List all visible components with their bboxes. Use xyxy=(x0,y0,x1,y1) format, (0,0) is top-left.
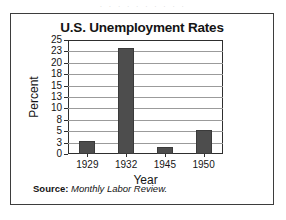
bar-1929 xyxy=(79,141,95,154)
x-axis-tick-mark xyxy=(87,154,88,157)
gridline xyxy=(68,97,223,98)
bar-1945 xyxy=(157,147,173,154)
x-axis-tick-label: 1945 xyxy=(154,160,176,170)
x-axis-tick-label: 1929 xyxy=(76,160,98,170)
y-axis-tick-mark xyxy=(64,63,68,64)
y-axis-tick-label: 10 xyxy=(51,103,62,113)
gridline xyxy=(68,74,223,75)
y-axis-tick-label: 23 xyxy=(51,46,62,56)
y-axis-tick-label: 3 xyxy=(56,138,62,148)
x-axis-tick-mark xyxy=(126,154,127,157)
chart-figure-frame: U.S. Unemployment Rates Percent 03581013… xyxy=(10,13,274,205)
x-axis-tick-mark xyxy=(204,154,205,157)
chart-title: U.S. Unemployment Rates xyxy=(11,20,273,35)
plot-region: 035810131518202325 1929193219451950 xyxy=(68,40,223,154)
gridline xyxy=(68,120,223,121)
y-axis-tick-mark xyxy=(64,97,68,98)
bar-1932 xyxy=(118,48,134,154)
x-axis-tick-mark xyxy=(165,154,166,157)
gridline xyxy=(68,108,223,109)
x-axis-tick-label: 1932 xyxy=(115,160,137,170)
source-value: Monthly Labor Review. xyxy=(71,183,167,194)
gridline xyxy=(68,51,223,52)
y-axis-tick-mark xyxy=(64,120,68,121)
y-axis-tick-label: 5 xyxy=(56,126,62,136)
scan-artifact-text: · · · · · · · · · · xyxy=(0,0,286,14)
y-axis-tick-label: 8 xyxy=(56,115,62,125)
y-axis-tick-label: 25 xyxy=(51,35,62,45)
y-axis-tick-mark xyxy=(64,108,68,109)
y-axis-tick-label: 18 xyxy=(51,69,62,79)
y-axis-tick-mark xyxy=(64,74,68,75)
gridline xyxy=(68,86,223,87)
x-axis-tick-label: 1950 xyxy=(193,160,215,170)
y-axis-tick-label: 0 xyxy=(56,149,62,159)
y-axis-tick-label: 20 xyxy=(51,58,62,68)
y-axis-tick-mark xyxy=(64,131,68,132)
source-line: Source: Monthly Labor Review. xyxy=(33,183,167,194)
y-axis-tick-mark xyxy=(64,143,68,144)
y-axis-title: Percent xyxy=(27,40,41,154)
y-axis-tick-mark xyxy=(64,154,68,155)
y-axis-tick-label: 13 xyxy=(51,92,62,102)
y-axis-tick-mark xyxy=(64,51,68,52)
y-axis-tick-mark xyxy=(64,40,68,41)
gridline xyxy=(68,63,223,64)
y-axis-tick-mark xyxy=(64,86,68,87)
source-label: Source: xyxy=(33,183,68,194)
y-axis-tick-label: 15 xyxy=(51,81,62,91)
bar-1950 xyxy=(196,130,212,154)
